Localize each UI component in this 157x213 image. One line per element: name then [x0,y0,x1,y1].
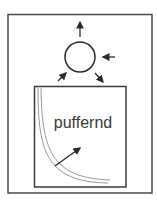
buffer-curve-inner [41,88,110,180]
circle [65,42,95,72]
diagram-canvas: puffernd [0,0,157,213]
inner-box [35,87,127,188]
arrow-lower-right-out-icon [95,73,103,82]
arrow-diagonal-icon [55,148,80,166]
buffer-curve-outer [38,88,108,183]
arrow-lower-left-in-icon [58,73,66,81]
puffernd-label: puffernd [54,114,112,131]
